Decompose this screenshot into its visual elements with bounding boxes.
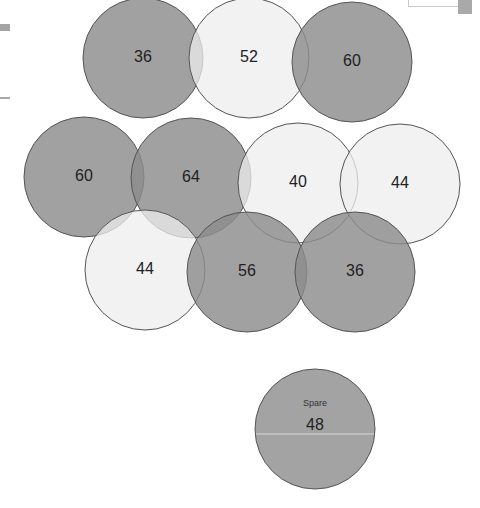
circle-value-c5: 64: [182, 168, 200, 185]
circle-value-c4: 60: [75, 167, 93, 184]
circle-value-c8: 44: [136, 260, 154, 277]
spare-value: 48: [306, 416, 324, 433]
spare-circle: Spare 48: [255, 369, 375, 489]
circle-value-c2: 52: [240, 48, 258, 65]
circle-value-c9: 56: [238, 262, 256, 279]
circle-value-c3: 60: [343, 52, 361, 69]
circle-value-c7: 44: [391, 174, 409, 191]
circle-value-c6: 40: [289, 173, 307, 190]
circle-value-c10: 36: [346, 262, 364, 279]
circle-value-c1: 36: [134, 48, 152, 65]
circle-diagram: 36526060644044445636 Spare 48: [0, 0, 480, 508]
spare-caption: Spare: [303, 398, 327, 408]
